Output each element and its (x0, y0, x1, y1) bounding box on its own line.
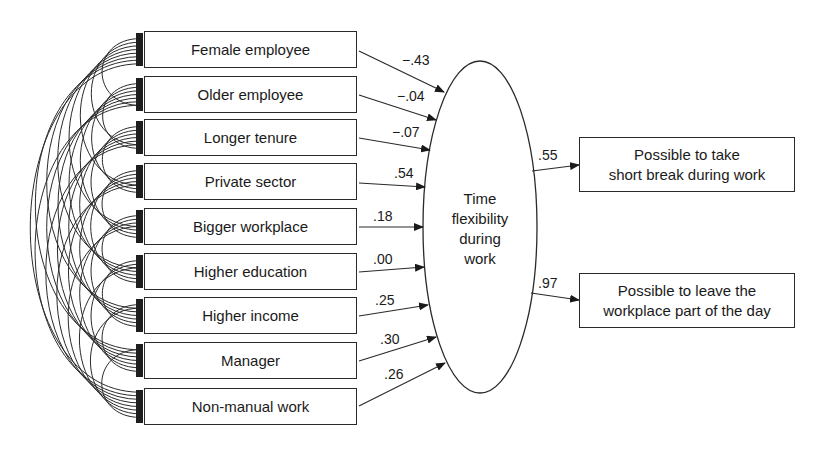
outcome-label-line: short break during work (609, 165, 766, 185)
path-arrow-short-break (532, 165, 579, 171)
latent-label-line: work (430, 249, 530, 269)
coefficient-income: .25 (375, 292, 394, 308)
correlation-arc (91, 264, 140, 368)
arrowhead-band (136, 255, 143, 288)
outcome-label-line: Possible to take (634, 145, 740, 165)
latent-label-line: Time (430, 189, 530, 209)
coefficient-female: −.43 (402, 52, 430, 68)
path-arrow-leave-workplace (531, 293, 579, 300)
arrowhead-band (136, 210, 143, 243)
arrowhead-band (136, 121, 143, 154)
coefficient-private: .54 (394, 165, 413, 181)
predictor-label: Bigger workplace (193, 218, 308, 235)
arrowhead-band (136, 390, 143, 423)
predictor-box-bigger-workplace: Bigger workplace (144, 208, 357, 245)
correlation-arc (35, 60, 140, 350)
path-arrow-private (359, 183, 425, 187)
predictor-box-higher-income: Higher income (144, 297, 357, 334)
arrowhead-band (136, 33, 143, 66)
predictor-box-longer-tenure: Longer tenure (144, 119, 357, 156)
predictor-box-female-employee: Female employee (144, 31, 357, 68)
predictor-label: Private sector (205, 173, 297, 190)
correlation-arc (79, 268, 140, 410)
coefficient-tenure: −.07 (392, 124, 420, 140)
arrowhead-band (136, 344, 143, 377)
diagram-canvas (0, 0, 825, 455)
latent-label-line: during (430, 229, 530, 249)
arc-endpoint-bands (136, 33, 143, 423)
correlation-arcs (30, 39, 140, 418)
outcome-box-leave-workplace: Possible to leave the workplace part of … (579, 273, 795, 328)
predictor-label: Longer tenure (204, 129, 297, 146)
predictor-label: Non-manual work (192, 398, 310, 415)
predictor-box-private-sector: Private sector (144, 163, 357, 200)
predictor-box-manager: Manager (144, 342, 357, 379)
coefficient-manager: .30 (380, 331, 399, 347)
loading-short-break: .55 (538, 147, 557, 163)
predictor-box-higher-education: Higher education (144, 253, 357, 290)
predictor-label: Older employee (198, 86, 304, 103)
correlation-arc (90, 308, 140, 414)
outcome-label-line: workplace part of the day (603, 301, 771, 321)
arrowhead-band (136, 299, 143, 332)
predictor-box-non-manual-work: Non-manual work (144, 388, 357, 425)
correlation-arc (68, 226, 140, 406)
outcome-box-short-break: Possible to take short break during work (579, 137, 795, 192)
latent-label-line: flexibility (430, 209, 530, 229)
path-diagram: Female employee Older employee Longer te… (0, 0, 825, 455)
path-arrow-education (359, 267, 424, 272)
predictor-label: Higher education (194, 263, 307, 280)
predictor-label: Higher income (202, 307, 299, 324)
latent-variable-label: Time flexibility during work (430, 189, 530, 269)
arrowhead-band (136, 78, 143, 111)
predictor-label: Female employee (191, 41, 310, 58)
coefficient-bigger: .18 (373, 208, 392, 224)
loading-leave-workplace: .97 (538, 275, 557, 291)
predictor-box-older-employee: Older employee (144, 76, 357, 113)
outcome-label-line: Possible to leave the (618, 281, 756, 301)
predictor-label: Manager (221, 352, 280, 369)
coefficient-nonmanual: .26 (384, 366, 403, 382)
coefficient-education: .00 (373, 251, 392, 267)
coefficient-older: −.04 (397, 88, 425, 104)
arrowhead-band (136, 165, 143, 198)
